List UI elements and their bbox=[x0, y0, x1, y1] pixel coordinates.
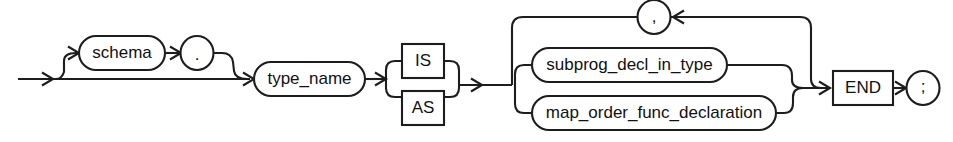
subprog-decl-in-type-node: subprog_decl_in_type bbox=[532, 48, 727, 82]
dot-rejoin-line bbox=[214, 53, 251, 79]
dot-label: . bbox=[195, 45, 200, 64]
schema-node: schema bbox=[79, 36, 165, 70]
type-name-node: type_name bbox=[254, 62, 365, 96]
map-order-func-declaration-label: map_order_func_declaration bbox=[546, 103, 762, 122]
is-as-merge-right bbox=[443, 61, 459, 97]
is-label: IS bbox=[415, 51, 431, 70]
dot-node: . bbox=[181, 36, 214, 70]
subprog-decl-in-type-label: subprog_decl_in_type bbox=[546, 55, 712, 74]
schema-label: schema bbox=[92, 43, 152, 62]
body-split-left bbox=[515, 65, 532, 113]
entry-arrow bbox=[18, 73, 53, 86]
map-order-merge-right bbox=[776, 88, 803, 113]
as-label: AS bbox=[412, 98, 435, 117]
end-label: END bbox=[845, 78, 881, 97]
schema-branch-up bbox=[56, 53, 78, 79]
comma-label: , bbox=[652, 7, 657, 26]
end-node: END bbox=[833, 71, 893, 105]
type-name-label: type_name bbox=[267, 69, 351, 88]
comma-node: , bbox=[638, 0, 671, 34]
semicolon-node: ; bbox=[907, 71, 940, 105]
railroad-svg-canvas: schema . type_name bbox=[0, 0, 953, 142]
railroad-diagram: schema . type_name bbox=[0, 0, 953, 142]
semicolon-label: ; bbox=[921, 77, 926, 96]
as-node: AS bbox=[402, 91, 444, 125]
is-node: IS bbox=[402, 44, 444, 78]
map-order-func-declaration-node: map_order_func_declaration bbox=[532, 96, 776, 130]
is-as-split-left bbox=[386, 61, 402, 97]
